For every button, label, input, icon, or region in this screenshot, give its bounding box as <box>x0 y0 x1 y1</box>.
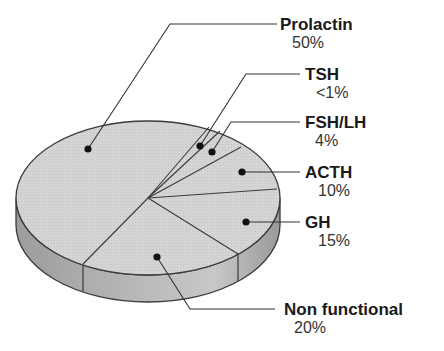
label-name: ACTH <box>305 164 352 181</box>
dot-tsh <box>196 142 203 149</box>
label-name: FSH/LH <box>305 114 366 131</box>
label-name: TSH <box>305 66 348 83</box>
dot-prolactin <box>84 145 91 152</box>
pie-chart <box>0 0 444 351</box>
label-fsh-lh: FSH/LH 4% <box>305 114 366 149</box>
label-name: Prolactin <box>280 16 353 33</box>
label-percent: 4% <box>315 133 366 149</box>
label-gh: GH 15% <box>305 214 350 249</box>
label-non-functional: Non functional 20% <box>284 301 403 336</box>
pie-top <box>16 121 280 275</box>
label-percent: 10% <box>318 183 352 199</box>
label-percent: <1% <box>316 85 348 101</box>
label-name: GH <box>305 214 350 231</box>
dot-acth <box>238 168 245 175</box>
label-name: Non functional <box>284 301 403 318</box>
dot-nonfunc <box>153 253 160 260</box>
label-percent: 20% <box>294 320 403 336</box>
label-tsh: TSH <1% <box>305 66 348 101</box>
dot-fsh <box>208 148 215 155</box>
label-prolactin: Prolactin 50% <box>280 16 353 51</box>
label-percent: 50% <box>292 35 353 51</box>
label-percent: 15% <box>318 233 350 249</box>
label-acth: ACTH 10% <box>305 164 352 199</box>
dot-gh <box>242 218 249 225</box>
